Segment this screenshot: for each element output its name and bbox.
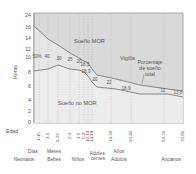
svg-text:25: 25	[67, 57, 73, 62]
svg-text:0: 0	[28, 119, 31, 125]
svg-text:2-3: 2-3	[67, 132, 72, 139]
y-tick-labels: 24 16 14 12 10 8 6 4 2 0	[25, 12, 31, 125]
nrem-label: Sueño no MOR	[58, 100, 97, 106]
svg-text:18,5: 18,5	[81, 62, 90, 67]
svg-text:11: 11	[161, 88, 166, 93]
svg-text:50%: 50%	[32, 54, 41, 59]
svg-text:16: 16	[25, 24, 31, 30]
svg-text:70-85: 70-85	[180, 130, 185, 142]
svg-text:3-5: 3-5	[45, 132, 50, 139]
svg-text:19-30: 19-30	[108, 130, 113, 142]
svg-text:18,9: 18,9	[82, 69, 91, 74]
x-axis-label: Edad	[6, 128, 18, 134]
svg-text:30: 30	[56, 56, 62, 61]
sleep-ontogeny-chart: 24 16 14 12 10 8 6 4 2 0 Horas 50% 40 30…	[0, 0, 196, 174]
svg-text:Meses: Meses	[47, 149, 62, 154]
svg-text:Adultos: Adultos	[111, 157, 128, 162]
svg-text:14-18: 14-18	[89, 130, 94, 142]
svg-text:Bebés: Bebés	[47, 157, 61, 162]
svg-text:1-15: 1-15	[36, 132, 41, 141]
svg-text:Neonatos: Neonatos	[14, 157, 35, 162]
svg-text:total: total	[145, 71, 155, 77]
svg-text:Años: Años	[114, 149, 126, 154]
svg-text:2: 2	[28, 108, 31, 114]
y-axis-label: Horas	[12, 65, 18, 79]
rem-label: Sueño MOR	[74, 38, 105, 44]
svg-text:8: 8	[28, 69, 31, 75]
svg-text:6: 6	[28, 83, 31, 89]
svg-text:13,8: 13,8	[174, 90, 183, 95]
svg-text:6-23: 6-23	[55, 133, 60, 142]
svg-text:33-45: 33-45	[128, 130, 133, 142]
svg-text:12: 12	[25, 46, 31, 52]
svg-text:24: 24	[25, 12, 31, 18]
age-groups: Días Meses Neonatos Bebés Niños Adoles- …	[14, 149, 182, 162]
svg-text:18,9: 18,9	[122, 86, 131, 91]
svg-text:10: 10	[25, 54, 31, 60]
svg-text:Días: Días	[28, 149, 38, 154]
svg-text:40: 40	[44, 54, 50, 59]
x-tick-labels: 1-15 3-5 6-23 2-3 3-5 5-9 10-13 14-18 19…	[36, 130, 185, 142]
svg-text:Ancianos: Ancianos	[161, 157, 181, 162]
svg-text:Niños: Niños	[72, 157, 85, 162]
svg-text:20: 20	[92, 77, 98, 82]
svg-text:centes: centes	[91, 156, 106, 161]
vigilia-label: Vigilia	[120, 55, 136, 61]
svg-text:50-70: 50-70	[161, 130, 166, 142]
svg-text:4: 4	[28, 97, 31, 103]
svg-text:14: 14	[25, 35, 31, 41]
svg-text:22: 22	[106, 80, 112, 85]
